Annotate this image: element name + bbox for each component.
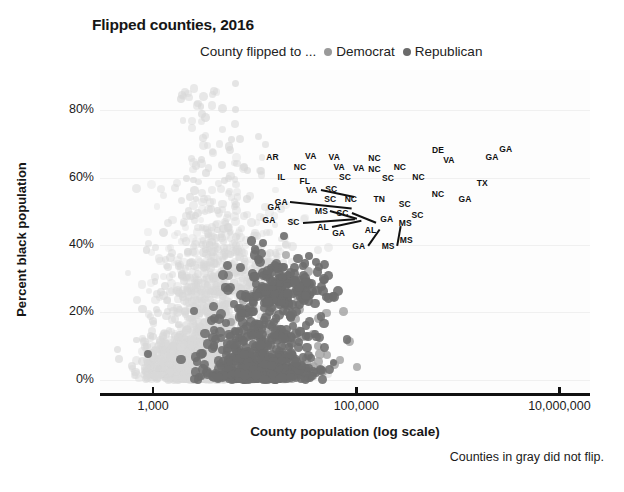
data-point-flipped-republican (291, 357, 301, 367)
x-tick-1 (355, 387, 358, 394)
data-point-not-flipped (145, 240, 152, 247)
y-axis-title: Percent black population (14, 140, 29, 340)
annotation-label-ms-11: MS (315, 206, 328, 216)
data-point-flipped-republican (278, 272, 287, 281)
data-point-not-flipped (232, 80, 239, 87)
annotation-label-va-35: VA (305, 151, 316, 161)
annotation-label-ga-13: GA (275, 197, 288, 207)
data-point-not-flipped (147, 335, 154, 342)
chart-title: Flipped counties, 2016 (92, 16, 254, 34)
annotation-label-sc-25: SC (339, 172, 351, 182)
x-tick-label-0: 1,000 (137, 399, 168, 413)
data-point-not-flipped (232, 153, 241, 162)
annotation-label-ar-34: AR (266, 152, 278, 162)
data-point-not-flipped (272, 187, 279, 194)
annotation-label-nc-27: NC (412, 172, 424, 182)
data-point-not-flipped (167, 244, 174, 251)
data-point-not-flipped (168, 216, 176, 224)
data-point-not-flipped (178, 197, 185, 204)
x-tick-label-2: 10,000,000 (528, 399, 591, 413)
legend-item-republican[interactable]: Republican (403, 44, 483, 59)
data-point-not-flipped (167, 373, 174, 380)
data-point-flipped-democrat (336, 356, 344, 364)
y-tick-label-1: 20% (69, 304, 94, 318)
annotation-label-sc-17: SC (399, 199, 411, 209)
data-point-not-flipped (275, 245, 282, 252)
data-point-not-flipped (180, 296, 189, 305)
chart-figure: Flipped counties, 2016 County flipped to… (0, 0, 624, 492)
data-point-not-flipped (171, 184, 179, 192)
data-point-not-flipped (169, 342, 177, 350)
annotation-label-sc-18: SC (412, 210, 424, 220)
data-point-not-flipped (163, 297, 170, 304)
data-point-not-flipped (198, 103, 205, 110)
data-point-flipped-republican (286, 312, 294, 320)
data-point-not-flipped (254, 219, 261, 226)
annotation-label-ms-7: MS (382, 241, 395, 251)
data-point-flipped-republican (229, 339, 239, 349)
data-point-not-flipped (208, 186, 216, 194)
data-point-not-flipped (159, 228, 168, 237)
gridline-y-4 (100, 110, 590, 111)
data-point-not-flipped (180, 117, 187, 124)
data-point-not-flipped (132, 184, 141, 193)
data-point-flipped-republican (318, 375, 327, 384)
data-point-not-flipped (182, 224, 189, 231)
data-point-flipped-democrat (353, 363, 361, 371)
data-point-not-flipped (216, 140, 224, 148)
data-point-not-flipped (209, 148, 216, 155)
y-tick-label-0: 0% (76, 372, 94, 386)
annotation-label-nc-37: NC (368, 153, 380, 163)
data-point-not-flipped (217, 185, 226, 194)
x-tick-0 (152, 387, 155, 394)
data-point-not-flipped (189, 166, 196, 173)
y-tick-label-2: 40% (69, 237, 94, 251)
data-point-flipped-republican (236, 263, 245, 272)
data-point-not-flipped (114, 346, 121, 353)
annotation-label-ga-39: GA (486, 152, 499, 162)
legend-item-democrat[interactable]: Democrat (324, 44, 395, 59)
annotation-label-al-3: AL (317, 222, 329, 232)
annotation-label-nc-32: NC (368, 164, 380, 174)
data-point-not-flipped (255, 133, 262, 140)
data-point-not-flipped (187, 341, 194, 348)
data-point-flipped-republican (209, 302, 218, 311)
data-point-flipped-democrat (339, 307, 348, 316)
data-point-flipped-republican (236, 290, 246, 300)
data-point-flipped-republican (223, 261, 232, 270)
data-point-flipped-republican (238, 309, 246, 317)
data-point-not-flipped (210, 87, 218, 95)
data-point-not-flipped (182, 321, 191, 330)
data-point-not-flipped (115, 355, 123, 363)
data-point-not-flipped (188, 117, 196, 125)
data-point-not-flipped (314, 246, 322, 254)
data-point-not-flipped (138, 280, 146, 288)
data-point-not-flipped (174, 333, 183, 342)
annotation-label-sc-12: SC (337, 208, 349, 218)
data-point-not-flipped (185, 94, 192, 101)
data-point-flipped-republican (320, 260, 329, 269)
data-point-flipped-republican (216, 309, 226, 319)
data-point-flipped-republican (301, 291, 309, 299)
annotation-label-tn-16: TN (374, 194, 386, 204)
x-tick-2 (558, 387, 561, 394)
annotation-label-al-6: AL (365, 225, 377, 235)
data-point-not-flipped (228, 136, 235, 143)
data-point-not-flipped (224, 211, 231, 218)
annotation-label-nc-21: NC (432, 189, 444, 199)
data-point-flipped-republican (238, 336, 248, 346)
data-point-not-flipped (231, 120, 239, 128)
data-point-not-flipped (148, 327, 156, 335)
data-point-flipped-republican (259, 239, 267, 247)
data-point-flipped-republican (283, 289, 293, 299)
data-point-flipped-republican (317, 312, 325, 320)
data-point-not-flipped (163, 263, 170, 270)
data-point-not-flipped (161, 329, 168, 336)
data-point-not-flipped (218, 161, 226, 169)
annotation-label-sc-2: SC (288, 217, 300, 227)
data-point-flipped-republican (210, 326, 218, 334)
data-point-not-flipped (191, 217, 198, 224)
data-point-not-flipped (153, 306, 160, 313)
data-point-not-flipped (171, 232, 179, 240)
data-point-not-flipped (182, 237, 190, 245)
